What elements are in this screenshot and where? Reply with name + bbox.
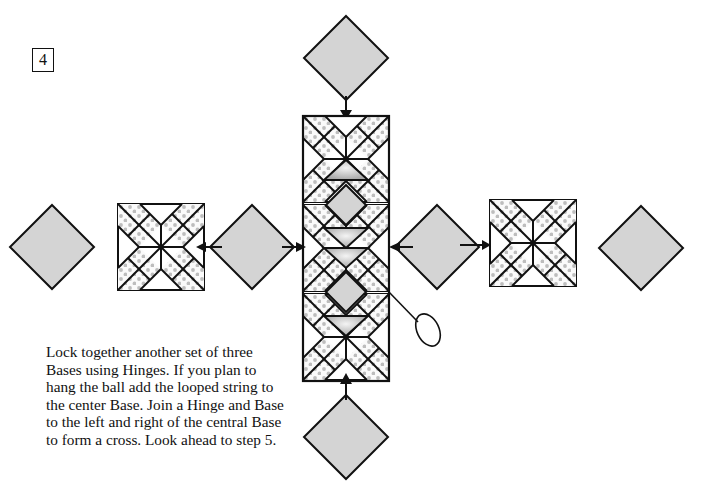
right-base — [490, 200, 576, 286]
instruction-page: 4 — [0, 0, 709, 499]
bottom-hinge — [304, 395, 388, 479]
instruction-caption: Lock together another set of three Bases… — [46, 343, 286, 449]
caption-line: Lock together another set of three — [46, 343, 286, 361]
caption-line: to form a cross. Look ahead to step 5. — [46, 431, 286, 449]
caption-line: hang the ball add the looped string to — [46, 378, 286, 396]
looped-string — [387, 290, 445, 350]
left-outer-hinge — [10, 205, 94, 289]
left-inner-hinge — [210, 205, 294, 289]
caption-line: to the left and right of the central Bas… — [46, 413, 286, 431]
right-outer-hinge — [599, 206, 683, 290]
caption-line: Bases using Hinges. If you plan to — [46, 361, 286, 379]
center-column — [303, 116, 389, 381]
caption-line: the center Base. Join a Hinge and Base — [46, 396, 286, 414]
left-base — [118, 204, 204, 290]
top-hinge — [304, 16, 388, 100]
